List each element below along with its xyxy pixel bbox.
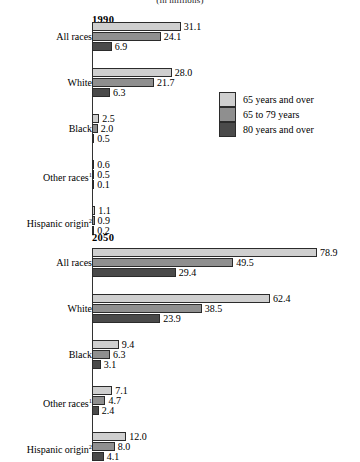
bar-2 [92,360,101,369]
bar-1 [92,258,233,267]
legend-label: 65 to 79 years [243,110,299,120]
bar-value-label: 2.4 [99,406,115,416]
bar-2 [92,452,104,461]
bar-row: 24.1 [92,32,352,41]
bar-row: 7.1 [92,386,352,395]
bar-value-label: 78.9 [317,248,338,258]
category-label: Other races1 [0,170,92,182]
category-label: Hispanic origin2 [0,216,92,228]
bar-row: 8.0 [92,442,352,451]
bar-row: 38.5 [92,304,352,313]
legend-label: 80 years and over [243,125,314,135]
bar-row: 78.9 [92,248,352,257]
bar-value-label: 23.9 [160,314,181,324]
category-label: Hispanic origin2 [0,442,92,454]
bar-value-label: 4.1 [104,452,120,462]
bar-value-label: 28.0 [172,68,193,78]
bar-row: 6.9 [92,42,352,51]
bar-row: 9.4 [92,340,352,349]
bar-1 [92,304,202,313]
bar-0 [92,248,317,257]
category-label: All races [0,32,92,41]
category-label: Black [0,124,92,133]
panel-year-label: 2050 [92,232,114,243]
bar-row: 0.5 [92,170,352,179]
category-label: All races [0,258,92,267]
bar-row: 21.7 [92,78,352,87]
bar-row: 0.6 [92,160,352,169]
bar-value-label: 6.3 [110,88,126,98]
bar-row: 3.1 [92,360,352,369]
category-label: White [0,304,92,313]
bar-value-label: 21.7 [154,78,175,88]
bar-0 [92,294,270,303]
bar-2 [92,314,160,323]
bar-value-label: 0.1 [94,180,110,190]
bar-row: 31.1 [92,22,352,31]
bar-row: 12.0 [92,432,352,441]
bar-2 [92,88,110,97]
bar-2 [92,42,112,51]
bar-value-label: 49.5 [233,258,254,268]
category-label: Black [0,350,92,359]
bar-row: 23.9 [92,314,352,323]
legend-label: 65 years and over [243,95,314,105]
bar-row: 28.0 [92,68,352,77]
bar-0 [92,114,99,123]
bar-value-label: 62.4 [270,294,291,304]
bar-row: 1.1 [92,206,352,215]
bar-value-label: 38.5 [202,304,223,314]
chart-title: (in millions) [0,0,360,5]
bar-value-label: 24.1 [161,32,182,42]
bar-row: 0.1 [92,180,352,189]
bar-value-label: 0.5 [94,134,110,144]
bar-row: 6.3 [92,350,352,359]
category-label: White [0,78,92,87]
bar-row: 29.4 [92,268,352,277]
bar-2 [92,268,176,277]
bar-value-label: 3.1 [101,360,117,370]
bar-2 [92,406,99,415]
bar-row: 0.9 [92,216,352,225]
legend-swatch-icon [219,107,236,122]
bar-value-label: 29.4 [176,268,197,278]
bar-value-label: 6.9 [112,42,128,52]
category-label: Other races1 [0,396,92,408]
bar-value-label: 31.1 [181,22,202,32]
bar-row: 49.5 [92,258,352,267]
bar-row: 4.7 [92,396,352,405]
bar-row: 2.4 [92,406,352,415]
legend-swatch-icon [219,122,236,137]
legend-swatch-icon [219,92,236,107]
bar-row: 0.2 [92,226,352,235]
bar-row: 4.1 [92,452,352,461]
